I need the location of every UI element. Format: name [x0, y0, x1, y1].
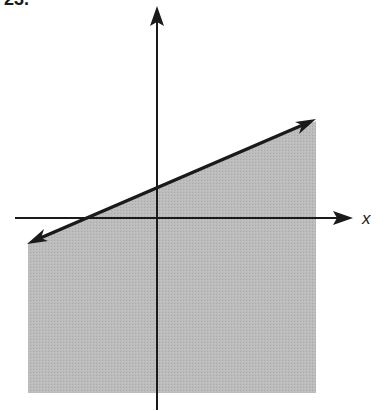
- problem-number: 23.: [4, 0, 29, 9]
- inequality-graph: 23. x: [0, 0, 387, 411]
- x-axis-label: x: [361, 209, 371, 228]
- shaded-region: [28, 121, 316, 393]
